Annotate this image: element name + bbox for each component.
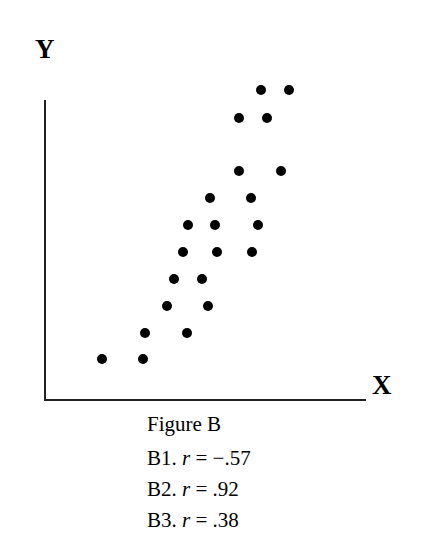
data-point [210, 220, 220, 230]
r-symbol: r [182, 508, 190, 532]
data-points [97, 85, 294, 364]
data-point [97, 354, 107, 364]
data-point [256, 85, 266, 95]
answer-option-b1: B1. r = −.57 [147, 446, 251, 471]
data-point [197, 274, 207, 284]
data-point [246, 193, 256, 203]
data-point [212, 247, 222, 257]
data-point [140, 328, 150, 338]
data-point [183, 220, 193, 230]
option-value: = −.57 [190, 446, 250, 470]
data-point [253, 220, 263, 230]
data-point [203, 301, 213, 311]
data-point [234, 113, 244, 123]
option-label: B1. [147, 446, 182, 470]
data-point [162, 301, 172, 311]
option-value: = .38 [190, 508, 239, 532]
data-point [262, 113, 272, 123]
data-point [276, 166, 286, 176]
r-symbol: r [182, 477, 190, 501]
answer-option-b3: B3. r = .38 [147, 508, 239, 533]
data-point [284, 85, 294, 95]
option-label: B3. [147, 508, 182, 532]
option-label: B2. [147, 477, 182, 501]
data-point [178, 247, 188, 257]
data-point [247, 247, 257, 257]
answer-option-b2: B2. r = .92 [147, 477, 239, 502]
figure-title: Figure B [147, 412, 221, 437]
scatter-plot [0, 0, 434, 555]
data-point [182, 328, 192, 338]
option-value: = .92 [190, 477, 239, 501]
data-point [205, 193, 215, 203]
data-point [169, 274, 179, 284]
data-point [138, 354, 148, 364]
r-symbol: r [182, 446, 190, 470]
data-point [234, 166, 244, 176]
